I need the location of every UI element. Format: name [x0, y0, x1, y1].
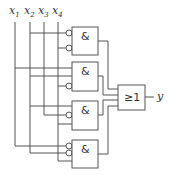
or-gate: ≥1 — [118, 85, 145, 110]
inverter-bubble — [66, 143, 72, 149]
gate-symbol: & — [81, 30, 90, 43]
gate-symbol: & — [81, 65, 90, 78]
output-label-y: y — [156, 90, 164, 103]
logic-circuit: x1 x2 x3 x4 & & & & — [0, 0, 174, 175]
gate-symbol: & — [81, 143, 90, 156]
wire-and1-or — [98, 41, 118, 89]
wire-and4-or — [98, 106, 118, 154]
inverter-bubble — [66, 45, 72, 51]
or-gate-symbol: ≥1 — [124, 91, 140, 104]
input-label-x1: x1 — [9, 4, 20, 19]
input-label-x3: x3 — [38, 4, 49, 19]
and-gate-3: & — [30, 101, 98, 130]
inverter-bubble — [66, 112, 72, 118]
inverter-bubble — [66, 30, 72, 36]
input-label-x4: x4 — [52, 4, 63, 19]
inverter-bubble — [66, 150, 72, 156]
and-gate-4: & — [15, 140, 98, 168]
input-label-x2: x2 — [24, 4, 35, 19]
and-gate-2: & — [15, 62, 98, 91]
gate-symbol: & — [81, 104, 90, 117]
inverter-bubble — [66, 83, 72, 89]
and-gate-1: & — [30, 27, 98, 55]
